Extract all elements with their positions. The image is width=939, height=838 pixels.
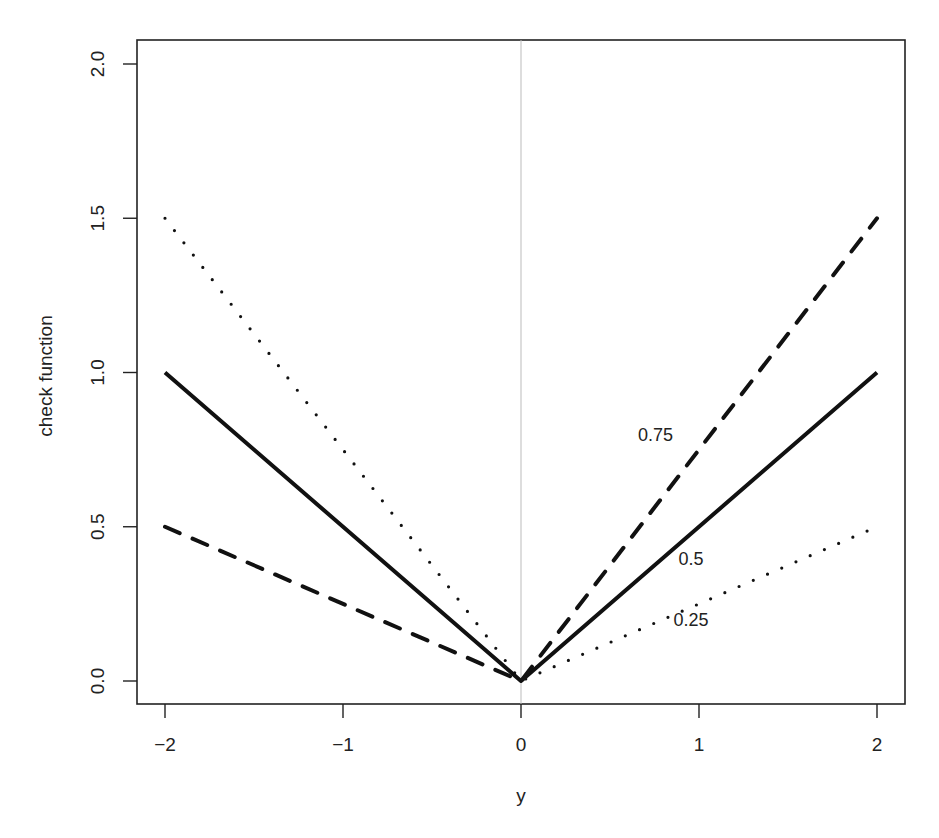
- x-tick-label: 2: [872, 734, 883, 755]
- series-label-tau-0-75: 0.75: [638, 425, 673, 445]
- x-axis-title: y: [516, 785, 526, 806]
- y-axis-title: check function: [35, 315, 56, 436]
- x-tick-label: −2: [154, 734, 176, 755]
- check-function-chart: 0.250.50.75 −2−1012 0.00.51.01.52.0 y ch…: [0, 0, 939, 838]
- series-label-tau-0-5: 0.5: [678, 549, 703, 569]
- y-tick-label: 2.0: [87, 51, 108, 77]
- y-tick-label: 0.5: [87, 514, 108, 540]
- y-tick-label: 1.0: [87, 359, 108, 385]
- x-tick-label: −1: [332, 734, 354, 755]
- y-tick-label: 1.5: [87, 205, 108, 231]
- y-tick-label: 0.0: [87, 668, 108, 694]
- y-axis: 0.00.51.01.52.0: [87, 51, 137, 694]
- series-label-tau-0-25: 0.25: [673, 610, 708, 630]
- x-axis: −2−1012: [154, 704, 882, 755]
- x-tick-label: 1: [694, 734, 705, 755]
- x-tick-label: 0: [516, 734, 527, 755]
